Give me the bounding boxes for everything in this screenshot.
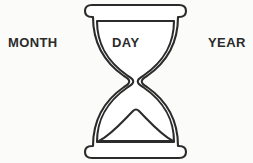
label-year: YEAR [208, 36, 246, 49]
hourglass-diagram: MONTH DAY YEAR [0, 0, 253, 163]
label-month: MONTH [8, 36, 58, 49]
hourglass-icon [0, 0, 253, 163]
label-day: DAY [112, 36, 139, 49]
